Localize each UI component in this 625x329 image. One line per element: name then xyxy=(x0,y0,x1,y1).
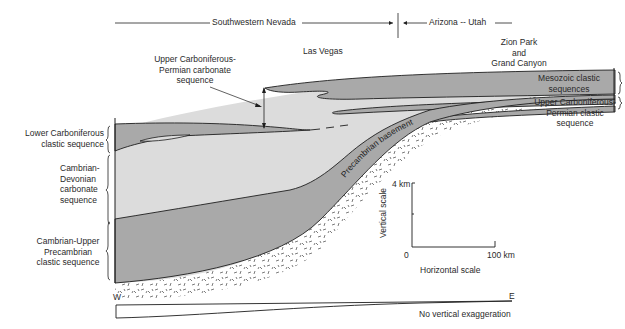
label-cambrian-upper-precambrian: Cambrian-UpperPrecambrianclastic sequenc… xyxy=(30,236,106,268)
label-upper-carb-permian-clastic: Upper Carboniferous-Permian clasticseque… xyxy=(527,97,623,129)
profile-caption: No vertical exaggeration xyxy=(419,309,511,320)
scale-horizontal-label: Horizontal scale xyxy=(420,265,480,276)
scale-horizontal-max: 100 km xyxy=(487,250,515,261)
scale-origin: 0 xyxy=(404,250,409,261)
label-lower-carboniferous: Lower Carboniferousclastic sequence xyxy=(0,128,104,149)
place-las-vegas: Las Vegas xyxy=(303,46,343,57)
label-mesozoic: Mesozoic clasticsequences xyxy=(524,73,614,94)
scale-bar xyxy=(412,183,495,247)
scale-vertical-label: Vertical scale xyxy=(378,188,389,238)
region-arizona-utah: Arizona -- Utah xyxy=(429,17,486,28)
left-braces xyxy=(106,126,110,280)
label-cambrian-devonian: Cambrian-Devoniancarbonatesequence xyxy=(60,163,100,205)
profile-east: E xyxy=(509,291,515,302)
place-zion-grand-canyon: Zion ParkandGrand Canyon xyxy=(489,37,549,69)
scale-vertical-max: 4 km xyxy=(392,179,410,190)
label-upper-carb-permian-carbonate: Upper Carboniferous-Permian carbonateseq… xyxy=(145,54,245,86)
region-southwestern-nevada: Southwestern Nevada xyxy=(212,17,296,28)
profile-west: W xyxy=(113,292,121,303)
